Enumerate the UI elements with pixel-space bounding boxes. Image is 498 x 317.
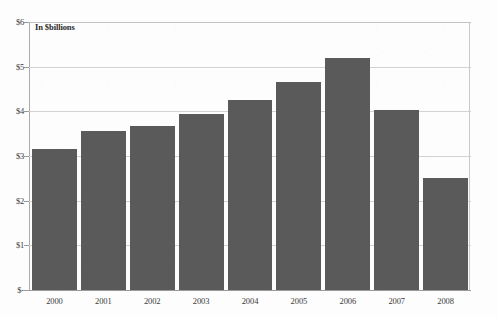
x-axis-tick-label: 2003 [177, 296, 226, 306]
y-axis-tick-label: $3 [0, 151, 24, 161]
bar-chart: $-$1$2$3$4$5$6 2000200120022003200420052… [0, 0, 498, 317]
bar-slot [372, 22, 421, 290]
units-annotation: In $billions [35, 22, 75, 32]
x-axis-tick-label: 2002 [128, 296, 177, 306]
bar-slot [274, 22, 323, 290]
x-axis-tick-label: 2001 [79, 296, 128, 306]
x-axis-tick-label: 2004 [226, 296, 275, 306]
y-axis-tick [24, 111, 29, 112]
y-axis-tick [24, 245, 29, 246]
bar[interactable] [32, 149, 77, 290]
bar[interactable] [374, 110, 419, 290]
bar-slot [421, 22, 470, 290]
y-axis-tick [24, 201, 29, 202]
bar-series [30, 22, 470, 290]
bar-slot [79, 22, 128, 290]
x-axis-tick-label: 2008 [421, 296, 470, 306]
x-axis-tick-label: 2006 [323, 296, 372, 306]
x-axis-tick-label: 2007 [372, 296, 421, 306]
bar[interactable] [228, 100, 273, 290]
bar[interactable] [179, 114, 224, 290]
y-axis-tick-label: $4 [0, 106, 24, 116]
bar[interactable] [276, 82, 321, 290]
bar[interactable] [81, 131, 126, 290]
bar-slot [226, 22, 275, 290]
y-axis-tick-label: $6 [0, 17, 24, 27]
bar-slot [30, 22, 79, 290]
x-axis-line [29, 290, 471, 291]
bar[interactable] [325, 58, 370, 290]
bar[interactable] [130, 126, 175, 290]
y-axis-tick [24, 22, 29, 23]
x-axis-tick-label: 2000 [30, 296, 79, 306]
bar-slot [128, 22, 177, 290]
y-axis-tick-label: $2 [0, 196, 24, 206]
y-axis-tick-label: $1 [0, 240, 24, 250]
y-axis-tick-label: $- [0, 285, 24, 295]
y-axis-tick-label: $5 [0, 62, 24, 72]
bar-slot [323, 22, 372, 290]
y-axis-tick [24, 67, 29, 68]
bar-slot [177, 22, 226, 290]
x-axis-tick-label: 2005 [274, 296, 323, 306]
y-axis-tick [24, 156, 29, 157]
bar[interactable] [423, 178, 468, 290]
x-axis-labels: 200020012002200320042005200620072008 [30, 296, 470, 306]
